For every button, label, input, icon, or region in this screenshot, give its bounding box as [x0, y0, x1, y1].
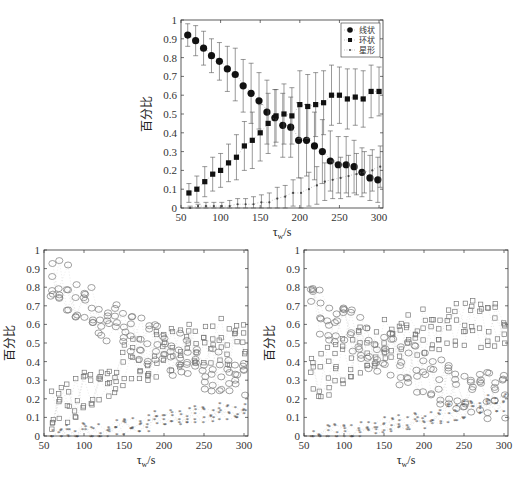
- data-point: *: [161, 412, 165, 420]
- data-point: [396, 382, 403, 388]
- data-point: *: [494, 400, 498, 408]
- data-point: [484, 410, 491, 416]
- data-point: [326, 305, 333, 311]
- data-point: [340, 177, 342, 179]
- data-point: [189, 207, 191, 209]
- data-point: [215, 349, 222, 355]
- data-point: [436, 377, 443, 383]
- data-point: [329, 93, 334, 98]
- data-point: [268, 201, 270, 203]
- data-point: [389, 355, 393, 359]
- data-point: [103, 338, 110, 344]
- data-point: [237, 203, 239, 205]
- data-point: [486, 343, 490, 347]
- data-point: [129, 354, 133, 358]
- y-tick-label: 0.7: [26, 300, 40, 312]
- data-point: [438, 357, 445, 363]
- data-point: [273, 113, 278, 118]
- data-point: [226, 160, 231, 165]
- y-tick-label: 0.5: [286, 337, 300, 349]
- data-point: *: [50, 433, 54, 441]
- data-point: [317, 300, 324, 306]
- data-point: *: [60, 433, 64, 441]
- data-point: [374, 330, 378, 334]
- data-point: *: [431, 417, 435, 425]
- data-point: [221, 205, 223, 207]
- series-星形: [188, 146, 383, 209]
- data-point: *: [438, 407, 442, 415]
- data-point: [361, 96, 366, 101]
- data-point: [169, 368, 173, 372]
- data-point: *: [462, 398, 466, 406]
- data-point: [313, 102, 318, 107]
- x-tick-label: 100: [336, 439, 353, 451]
- data-point: *: [114, 424, 118, 432]
- data-point: [353, 94, 358, 99]
- data-point: *: [312, 428, 316, 436]
- data-point: [463, 301, 467, 305]
- data-point: *: [218, 400, 222, 408]
- data-point: [234, 324, 238, 328]
- data-point: *: [81, 420, 85, 428]
- data-point: [325, 332, 332, 338]
- data-point: *: [75, 433, 79, 441]
- data-point: [219, 345, 223, 349]
- data-point: *: [170, 412, 174, 420]
- data-point: [111, 313, 118, 319]
- y-tick-label: 0.1: [286, 411, 300, 423]
- data-point: [446, 308, 450, 312]
- legend-dot-icon: [349, 49, 351, 51]
- data-point: *: [367, 427, 371, 435]
- data-point: [284, 196, 286, 198]
- data-point: *: [317, 431, 321, 439]
- series-星形: ****************************************…: [309, 391, 507, 441]
- data-point: [316, 331, 323, 337]
- data-point: [146, 378, 150, 382]
- data-point: *: [201, 419, 205, 427]
- data-point: [447, 326, 451, 330]
- x-tick-label: 50: [176, 211, 188, 223]
- data-point: *: [446, 419, 450, 427]
- y-tick-label: 0.8: [163, 52, 177, 64]
- x-tick-label: 150: [376, 439, 393, 451]
- data-point: [289, 113, 294, 118]
- data-point: [477, 326, 481, 330]
- data-point: *: [391, 415, 395, 423]
- x-tick-label: 300: [371, 211, 388, 223]
- data-point: [119, 310, 126, 316]
- data-point: [186, 190, 191, 195]
- data-point: *: [131, 425, 135, 433]
- data-point: [421, 326, 425, 330]
- y-axis-label: 百分比: [263, 325, 277, 361]
- data-point: [333, 311, 340, 317]
- data-point: [341, 378, 345, 382]
- data-point: [107, 394, 111, 398]
- data-point: [357, 314, 364, 320]
- y-tick-label: 0.6: [286, 318, 300, 330]
- y-tick-label: 0.9: [286, 263, 300, 275]
- data-point: *: [343, 433, 347, 441]
- data-point: [355, 173, 357, 175]
- y-tick-label: 0.1: [26, 411, 40, 423]
- x-tick-label: 250: [456, 439, 473, 451]
- data-point: [82, 297, 89, 303]
- y-tick-label: 0.9: [163, 33, 177, 45]
- y-tick-label: 0.2: [286, 393, 300, 405]
- data-point: *: [97, 421, 101, 429]
- data-point: [218, 168, 223, 173]
- data-point: [263, 109, 270, 116]
- data-point: [56, 258, 63, 264]
- y-tick-label: 0.4: [286, 356, 300, 368]
- data-point: [325, 345, 329, 349]
- data-point: [97, 398, 101, 402]
- data-point: [88, 378, 92, 382]
- data-point: [211, 337, 215, 341]
- data-point: [114, 370, 118, 374]
- legend: 线状环状星形: [341, 23, 380, 57]
- data-point: [471, 299, 475, 303]
- data-point: [127, 321, 134, 327]
- y-tick-label: 1: [35, 244, 41, 256]
- data-point: [429, 324, 433, 328]
- data-point: *: [469, 398, 473, 406]
- data-point: *: [453, 407, 457, 415]
